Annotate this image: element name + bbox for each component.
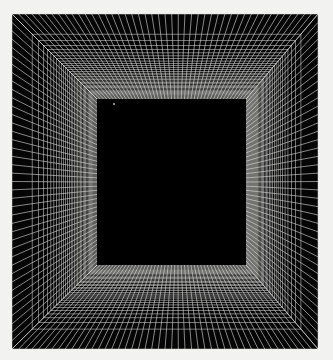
square-tunnel-illustration — [0, 0, 333, 360]
artwork-canvas — [0, 0, 333, 360]
bright-speck-artifact — [113, 103, 115, 105]
inner-void-group — [97, 99, 246, 265]
inner-void-rect — [97, 99, 246, 265]
speck-group — [113, 103, 115, 105]
